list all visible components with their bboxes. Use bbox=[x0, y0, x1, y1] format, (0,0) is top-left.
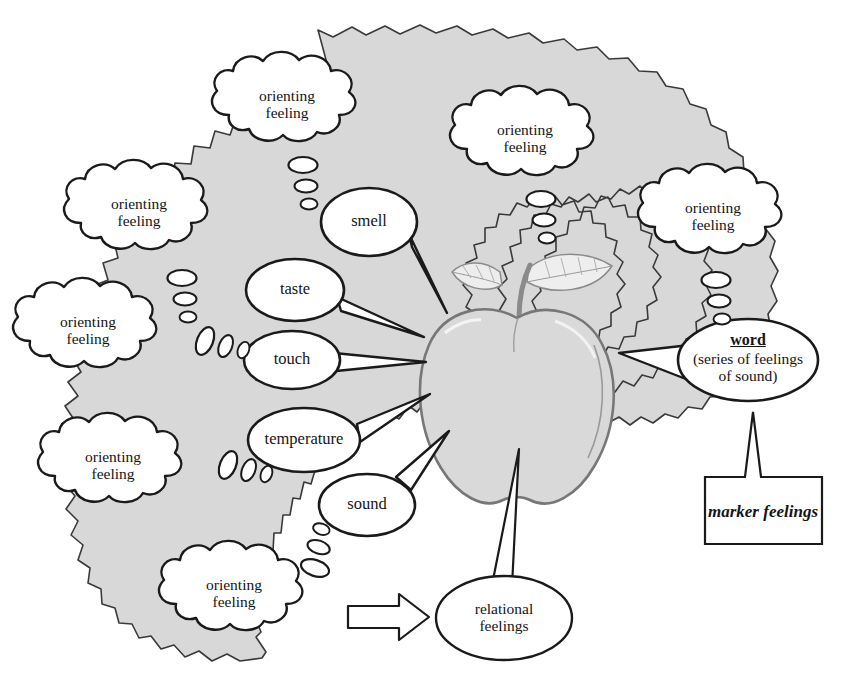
block-arrow-right-icon bbox=[348, 594, 429, 640]
marker-feelings-box[interactable] bbox=[705, 412, 822, 544]
diagram-canvas: orienting feeling orienting feeling orie… bbox=[0, 0, 846, 691]
diagram-svg bbox=[0, 0, 846, 691]
